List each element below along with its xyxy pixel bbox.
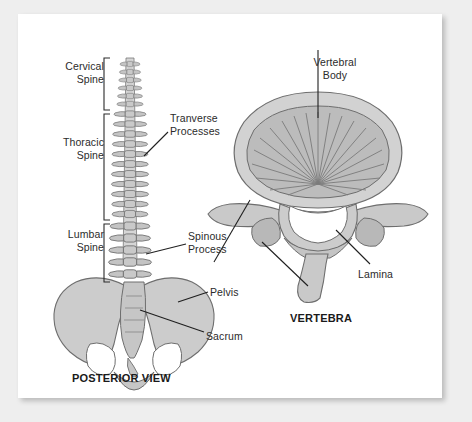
label-pelvis: Pelvis	[210, 286, 264, 299]
label-transverse-processes: Tranverse Processes	[170, 112, 254, 137]
label-cervical-spine: Cervical Spine	[32, 60, 104, 85]
bracket-thoracic	[104, 114, 110, 220]
label-lumbar-spine: Lumbar Spine	[28, 228, 104, 253]
label-spinous-process: Spinous Process	[188, 230, 258, 255]
label-vertebral-body: Vertebral Body	[290, 56, 380, 81]
leader-spinous-spine	[146, 244, 186, 254]
section-brackets	[104, 58, 110, 282]
diagram-card: Cervical Spine Thoracic Spine Lumbar Spi…	[18, 14, 442, 398]
figure-background: Cervical Spine Thoracic Spine Lumbar Spi…	[0, 0, 472, 422]
caption-vertebra: VERTEBRA	[290, 312, 352, 324]
label-thoracic-spine: Thoracic Spine	[24, 136, 104, 161]
spine-column-illustration	[109, 58, 152, 278]
label-lamina: Lamina	[358, 268, 418, 281]
bracket-cervical	[104, 58, 110, 110]
label-sacrum: Sacrum	[206, 330, 266, 343]
caption-posterior-view: POSTERIOR VIEW	[72, 372, 171, 384]
